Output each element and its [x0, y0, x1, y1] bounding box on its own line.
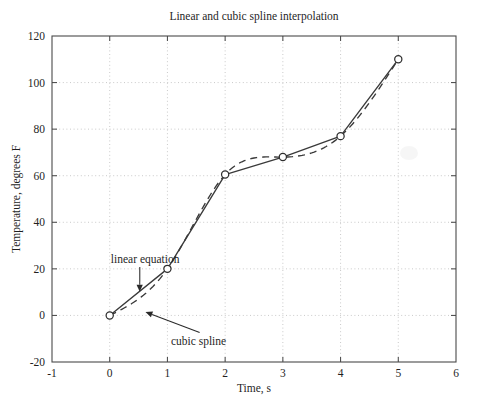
data-point-marker: [222, 171, 229, 178]
figure-background: [0, 0, 483, 414]
y-tick-label: 20: [34, 263, 46, 275]
x-tick-label: 3: [280, 367, 286, 379]
y-tick-label: 60: [34, 170, 46, 182]
data-point-marker: [279, 153, 286, 160]
y-tick-label: 100: [28, 77, 46, 89]
y-tick-label: 80: [34, 123, 46, 135]
x-axis-label: Time, s: [237, 382, 272, 395]
y-axis-label: Temperature, degrees F: [10, 145, 23, 253]
chart-title: Linear and cubic spline interpolation: [169, 10, 338, 23]
chart-figure: Linear and cubic spline interpolation -1…: [0, 0, 483, 414]
x-tick-label: -1: [47, 367, 57, 379]
x-tick-label: 1: [165, 367, 171, 379]
data-point-marker: [164, 265, 171, 272]
x-tick-label: 2: [222, 367, 228, 379]
x-tick-label: 6: [453, 367, 459, 379]
x-tick-label: 0: [107, 367, 113, 379]
data-point-marker: [395, 56, 402, 63]
x-tick-label: 5: [395, 367, 401, 379]
y-tick-label: 0: [39, 309, 45, 321]
annotation-label-cubic-spline: cubic spline: [171, 335, 226, 348]
data-point-marker: [106, 312, 113, 319]
annotation-label-linear-equation: linear equation: [111, 253, 180, 266]
x-tick-label: 4: [338, 367, 344, 379]
y-tick-label: 40: [34, 216, 46, 228]
scan-smudge: [400, 146, 418, 160]
y-tick-label: -20: [30, 356, 46, 368]
y-tick-label: 120: [28, 30, 46, 42]
data-point-marker: [337, 133, 344, 140]
